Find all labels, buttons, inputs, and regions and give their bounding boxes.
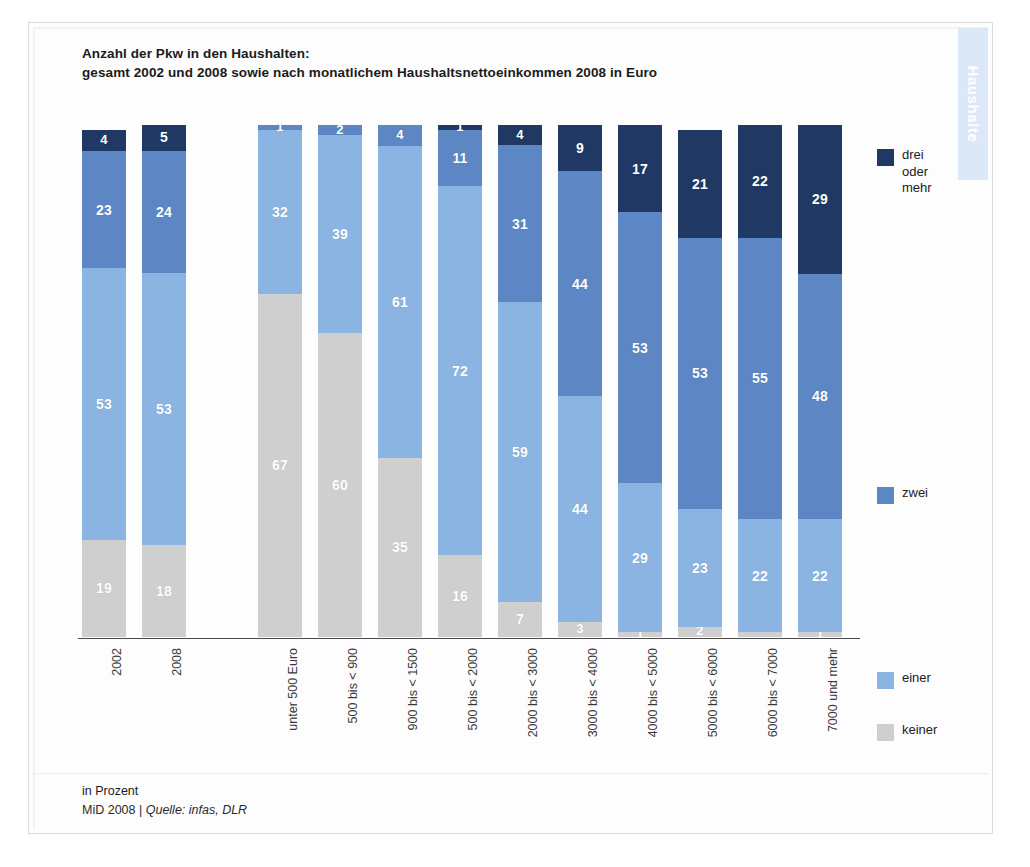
footer-unit: in Prozent	[82, 782, 682, 801]
segment-value-label: 4	[396, 128, 403, 141]
title-line-1: Anzahl der Pkw in den Haushalten:	[82, 46, 310, 61]
footer-divider	[33, 773, 988, 774]
segment-value-label: 9	[576, 141, 584, 155]
bar-unter-500-euro: 67321	[258, 125, 302, 637]
segment-value-label: 48	[812, 389, 828, 403]
bar-segment-zwei: 2	[318, 125, 362, 135]
segment-value-label: 29	[812, 192, 828, 206]
segment-value-label: 32	[272, 205, 288, 219]
bar-segment-zwei: 4	[378, 125, 422, 145]
bar-segment-zwei: 23	[82, 151, 126, 269]
x-tick-label-text: 2002	[110, 648, 124, 798]
x-tick-label: 500 bis < 2000	[466, 648, 482, 798]
segment-value-label: 44	[572, 502, 588, 516]
x-tick-label: 2002	[110, 648, 126, 798]
bar-segment-keiner	[738, 632, 782, 637]
bar-3000-bis-4000: 344449	[558, 125, 602, 637]
bar-segment-zwei: 53	[618, 212, 662, 483]
segment-value-label: 7	[516, 612, 524, 626]
segment-value-label: 44	[572, 277, 588, 291]
segment-value-label: 18	[156, 584, 172, 598]
segment-value-label: 22	[752, 174, 768, 188]
bar-segment-einer: 59	[498, 302, 542, 601]
x-tick-label: 7000 und mehr	[826, 648, 842, 798]
bar-7000-und-mehr: 1224829	[798, 125, 842, 637]
bar-segment-drei-oder-mehr: 4	[498, 125, 542, 145]
x-tick-label: 500 bis < 900	[346, 648, 362, 798]
segment-value-label: 53	[692, 366, 708, 380]
legend-label: drei oder mehr	[902, 147, 932, 197]
bar-500-bis-900: 60392	[318, 125, 362, 637]
bar-segment-zwei: 31	[498, 145, 542, 302]
segment-value-label: 23	[692, 561, 708, 575]
x-tick-label-text: 5000 bis < 6000	[706, 648, 720, 798]
segment-value-label: 60	[332, 478, 348, 492]
bar-5000-bis-6000: 2235321	[678, 125, 722, 637]
bar-segment-keiner: 1	[798, 632, 842, 637]
footer-source-prefix: MiD 2008 |	[82, 803, 146, 817]
legend-label: keiner	[902, 722, 937, 739]
page-title: Anzahl der Pkw in den Haushalten: gesamt…	[82, 44, 782, 82]
segment-value-label: 39	[332, 227, 348, 241]
bar-2000-bis-3000: 759314	[498, 125, 542, 637]
bar-segment-keiner: 16	[438, 555, 482, 637]
x-tick-label-text: 2000 bis < 3000	[526, 648, 540, 798]
segment-value-label: 61	[392, 295, 408, 309]
x-tick-label: 3000 bis < 4000	[586, 648, 602, 798]
bar-segment-einer: 32	[258, 130, 302, 294]
x-tick-label-text: 4000 bis < 5000	[646, 648, 660, 798]
bar-segment-einer: 72	[438, 186, 482, 555]
x-tick-label-text: 6000 bis < 7000	[766, 648, 780, 798]
x-tick-label-text: 500 bis < 900	[346, 648, 360, 798]
segment-value-label: 22	[812, 569, 828, 583]
bar-segment-einer: 53	[82, 268, 126, 539]
segment-value-label: 19	[96, 581, 112, 595]
bar-segment-zwei: 24	[142, 151, 186, 274]
x-tick-label: 4000 bis < 5000	[646, 648, 662, 798]
bar-segment-keiner: 18	[142, 545, 186, 637]
bar-segment-einer: 44	[558, 396, 602, 621]
x-tick-label-text: 500 bis < 2000	[466, 648, 480, 798]
x-tick-label: 2000 bis < 3000	[526, 648, 542, 798]
segment-value-label: 1	[456, 120, 463, 133]
x-tick-label: 900 bis < 1500	[406, 648, 422, 798]
bar-segment-drei-oder-mehr: 17	[618, 125, 662, 212]
bar-segment-einer: 39	[318, 135, 362, 333]
bar-segment-keiner: 67	[258, 294, 302, 637]
bar-segment-einer: 23	[678, 509, 722, 627]
bar-segment-keiner: 19	[82, 540, 126, 637]
legend-swatch	[877, 149, 894, 166]
chart-footer: in Prozent MiD 2008 | Quelle: infas, DLR	[82, 782, 682, 820]
x-tick-label: unter 500 Euro	[286, 648, 302, 798]
legend-item-einer[interactable]: einer	[877, 670, 931, 689]
bar-900-bis-1500: 35614	[378, 125, 422, 637]
legend-item-zwei[interactable]: zwei	[877, 485, 928, 504]
segment-value-label: 5	[160, 130, 168, 144]
chart-page: Anzahl der Pkw in den Haushalten: gesamt…	[0, 0, 1030, 867]
bar-segment-drei-oder-mehr: 1	[438, 125, 482, 130]
stacked-bar-chart: 1953234185324567321603923561416721117593…	[82, 125, 862, 637]
bar-segment-keiner: 35	[378, 458, 422, 637]
bar-segment-drei-oder-mehr: 9	[558, 125, 602, 171]
segment-value-label: 55	[752, 371, 768, 385]
bar-4000-bis-5000: 1295317	[618, 125, 662, 637]
legend-label: zwei	[902, 485, 928, 502]
segment-value-label: 4	[100, 133, 107, 146]
bar-segment-keiner: 1	[618, 632, 662, 637]
legend-item-keiner[interactable]: keiner	[877, 722, 937, 741]
title-line-2: gesamt 2002 und 2008 sowie nach monatlic…	[82, 63, 782, 82]
bar-segment-drei-oder-mehr: 29	[798, 125, 842, 273]
x-tick-label-text: 7000 und mehr	[826, 648, 840, 798]
segment-value-label: 23	[96, 203, 112, 217]
bar-segment-drei-oder-mehr: 4	[82, 130, 126, 150]
segment-value-label: 11	[452, 151, 467, 165]
segment-value-label: 72	[452, 364, 468, 378]
segment-value-label: 1	[276, 120, 283, 133]
legend-swatch	[877, 487, 894, 504]
bar-500-bis-2000: 1672111	[438, 125, 482, 637]
bar-segment-einer: 22	[798, 519, 842, 632]
bar-segment-einer: 22	[738, 519, 782, 632]
segment-value-label: 31	[512, 217, 528, 231]
segment-value-label: 59	[512, 445, 528, 459]
legend-item-drei-oder-mehr[interactable]: drei oder mehr	[877, 147, 932, 197]
